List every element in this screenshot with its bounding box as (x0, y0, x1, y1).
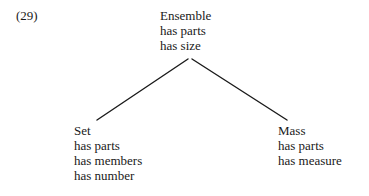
tree-node-set: Set has parts has members has number (74, 123, 142, 183)
branch-line-root-to-set (97, 59, 188, 120)
node-attribute: has parts (278, 138, 342, 153)
node-attribute: has parts (74, 138, 142, 153)
tree-diagram-figure: (29) Ensemble has parts has size Set has… (0, 0, 369, 196)
example-number-label: (29) (16, 8, 38, 23)
node-attribute: has number (74, 168, 142, 183)
node-label-mass: Mass (278, 123, 342, 138)
node-label-ensemble: Ensemble (160, 8, 211, 23)
branch-line-root-to-mass (192, 59, 287, 120)
node-attribute: has members (74, 153, 142, 168)
node-attribute: has size (160, 38, 211, 53)
node-attribute: has measure (278, 153, 342, 168)
node-attribute: has parts (160, 23, 211, 38)
node-label-set: Set (74, 123, 142, 138)
tree-node-mass: Mass has parts has measure (278, 123, 342, 168)
tree-node-ensemble: Ensemble has parts has size (160, 8, 211, 53)
